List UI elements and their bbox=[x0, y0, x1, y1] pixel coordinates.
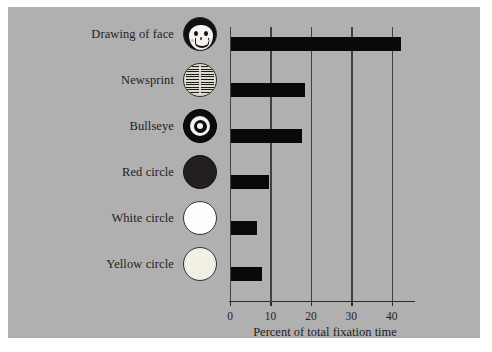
category-label: Bullseye bbox=[129, 120, 174, 133]
category-label: White circle bbox=[111, 212, 174, 225]
x-tick bbox=[270, 302, 271, 306]
gridline-40 bbox=[392, 27, 393, 302]
x-tick-label: 10 bbox=[265, 310, 277, 322]
bullseye-icon bbox=[183, 109, 217, 143]
category-label: Drawing of face bbox=[91, 28, 174, 41]
x-tick bbox=[392, 302, 393, 306]
gridline-30 bbox=[351, 27, 352, 302]
x-tick bbox=[230, 302, 231, 306]
x-tick-label: 20 bbox=[305, 310, 317, 322]
red-circle-icon bbox=[183, 155, 217, 189]
category-row-bullseye: Bullseye bbox=[8, 103, 223, 149]
category-row-drawing-of-face: Drawing of face bbox=[8, 11, 223, 57]
bar-white-circle bbox=[231, 221, 257, 235]
bar-newsprint bbox=[231, 83, 305, 97]
figure-canvas: Drawing of face Newsprint Bullseye bbox=[0, 0, 492, 352]
gridline-10 bbox=[270, 27, 271, 302]
category-row-yellow-circle: Yellow circle bbox=[8, 241, 223, 287]
x-tick-label: 40 bbox=[386, 310, 398, 322]
gridline-20 bbox=[311, 27, 312, 302]
bar-yellow-circle bbox=[231, 267, 262, 281]
newsprint-icon bbox=[183, 63, 217, 97]
bar-bullseye bbox=[231, 129, 302, 143]
x-tick-label: 0 bbox=[227, 310, 233, 322]
y-axis-line bbox=[230, 27, 231, 302]
yellow-circle-icon bbox=[183, 247, 217, 281]
category-row-red-circle: Red circle bbox=[8, 149, 223, 195]
x-tick-label: 30 bbox=[346, 310, 358, 322]
category-label: Red circle bbox=[122, 166, 174, 179]
category-row-newsprint: Newsprint bbox=[8, 57, 223, 103]
figure-plate: Drawing of face Newsprint Bullseye bbox=[8, 7, 480, 338]
bar-red-circle bbox=[231, 175, 269, 189]
x-tick bbox=[351, 302, 352, 306]
white-circle-icon bbox=[183, 201, 217, 235]
plot-area: 0 10 20 30 40 bbox=[230, 27, 412, 302]
x-axis-title: Percent of total fixation time bbox=[230, 325, 420, 340]
category-label: Yellow circle bbox=[106, 258, 174, 271]
category-label: Newsprint bbox=[121, 74, 174, 87]
bar-drawing-of-face bbox=[231, 37, 401, 51]
category-row-white-circle: White circle bbox=[8, 195, 223, 241]
drawing-of-face-icon bbox=[183, 17, 217, 51]
x-tick bbox=[311, 302, 312, 306]
x-axis-line bbox=[229, 301, 415, 303]
